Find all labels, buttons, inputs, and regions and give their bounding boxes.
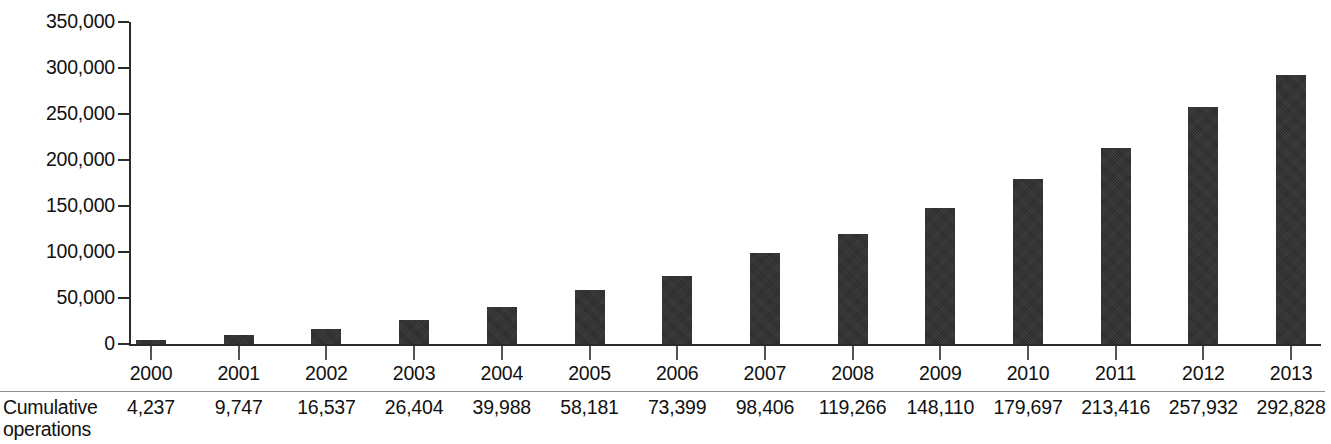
bar: [750, 253, 780, 344]
x-axis-tick: [676, 346, 678, 360]
x-axis-tick: [501, 346, 503, 360]
bar: [136, 340, 166, 344]
bar: [311, 329, 341, 344]
bar: [925, 208, 955, 344]
table-cell-value: 292,828: [1226, 396, 1331, 418]
bars-layer: [0, 0, 1331, 344]
bar: [838, 234, 868, 344]
bar-chart-figure: 050,000100,000150,000200,000250,000300,0…: [0, 0, 1331, 444]
x-axis-tick: [413, 346, 415, 360]
x-axis-tick: [325, 346, 327, 360]
x-axis-tick: [1027, 346, 1029, 360]
x-axis-tick: [150, 346, 152, 360]
bar: [662, 276, 692, 344]
x-axis-line: [129, 344, 1321, 346]
x-axis-tick: [589, 346, 591, 360]
bar: [575, 290, 605, 344]
x-axis-tick: [1290, 346, 1292, 360]
bar: [1013, 179, 1043, 344]
x-axis-tick: [939, 346, 941, 360]
bar: [1101, 148, 1131, 344]
bar: [399, 320, 429, 344]
x-axis-tick: [1115, 346, 1117, 360]
x-axis-tick-label: 2013: [1231, 362, 1331, 384]
bar: [1276, 75, 1306, 344]
x-axis-tick: [852, 346, 854, 360]
x-axis-tick: [1202, 346, 1204, 360]
x-axis-tick: [238, 346, 240, 360]
x-axis-tick: [764, 346, 766, 360]
plot-area: 050,000100,000150,000200,000250,000300,0…: [0, 0, 1331, 356]
table-row-label-line2: operations: [3, 418, 123, 440]
bar: [487, 307, 517, 344]
table-top-rule: [0, 391, 1325, 392]
bar: [1188, 107, 1218, 344]
bar: [224, 335, 254, 344]
